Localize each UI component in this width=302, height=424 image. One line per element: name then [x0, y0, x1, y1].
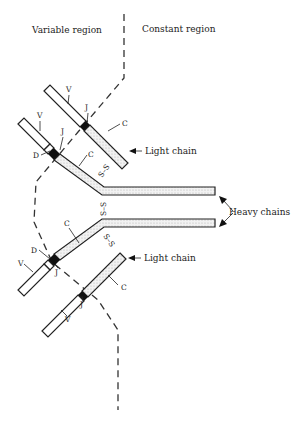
disulfide-bond-top: S–S	[96, 162, 111, 179]
label-c-top-heavy: C	[88, 150, 94, 159]
label-v-top-heavy: V	[36, 111, 43, 120]
label-v-bottom-light: V	[64, 315, 71, 324]
light-bottom-constant	[82, 253, 126, 297]
arrow-icon	[129, 148, 136, 154]
constant-region-label: Constant region	[142, 24, 216, 34]
arrow-icon	[128, 255, 135, 261]
label-j-bottom-heavy: J	[54, 268, 58, 277]
light-bottom-variable	[42, 295, 84, 337]
heavy-chains-label: Heavy chains	[229, 207, 290, 217]
antibody-diagram: Variable region Constant region V J C Li…	[0, 0, 302, 424]
label-c-top-light: C	[122, 119, 128, 128]
label-j-top-heavy: J	[60, 127, 64, 136]
label-d-bottom-heavy: D	[31, 246, 37, 255]
label-c-bottom-heavy: C	[64, 219, 70, 228]
label-j-top-light: J	[84, 103, 88, 112]
label-v-bottom-heavy: V	[17, 259, 24, 268]
light-top-variable	[44, 85, 86, 127]
region-boundary-line	[34, 14, 124, 410]
light-top-constant	[84, 125, 128, 169]
light-chain-bottom-label: Light chain	[144, 253, 196, 263]
heavy-bottom-variable	[18, 264, 50, 296]
label-j-bottom-light: J	[79, 300, 83, 309]
disulfide-bond-bottom: S–S	[101, 232, 116, 249]
disulfide-bond-middle: S–S	[99, 202, 108, 216]
variable-region-label: Variable region	[31, 25, 102, 35]
label-d-top-heavy: D	[33, 151, 39, 160]
heavy-top-constant	[54, 154, 215, 195]
light-chain-top-label: Light chain	[145, 146, 197, 156]
label-c-bottom-light: C	[121, 283, 127, 292]
light-chain-bottom	[42, 253, 126, 337]
label-v-top-light: V	[65, 85, 72, 94]
heavy-top-variable	[18, 118, 50, 150]
